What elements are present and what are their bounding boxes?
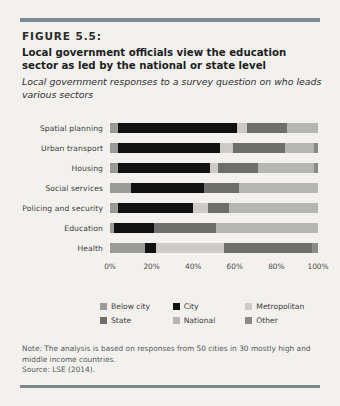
top-divider (20, 18, 320, 22)
bar-segment (118, 123, 237, 133)
figure-notes: Note: The analysis is based on responses… (22, 344, 312, 376)
legend-swatch-icon (245, 303, 252, 310)
bar-segment (233, 143, 285, 153)
chart-plot-area: Spatial planningUrban transportHousingSo… (22, 118, 318, 258)
bar-segment (216, 223, 318, 233)
category-label: Health (22, 244, 110, 253)
figure-number: FIGURE 5.5: (22, 30, 322, 42)
legend-row: Below cityCityMetropolitan (22, 302, 318, 311)
bar-segment (118, 143, 220, 153)
bar-segment (110, 203, 118, 213)
legend-swatch-icon (245, 317, 252, 324)
bar-row: Urban transport (22, 138, 318, 158)
bar-segment (210, 163, 218, 173)
legend-item[interactable]: National (173, 316, 242, 325)
bar-segment (314, 163, 318, 173)
bar-row: Social services (22, 178, 318, 198)
bar-segment (258, 163, 314, 173)
x-tick-label: 20% (143, 262, 159, 271)
x-tick-label: 100% (307, 262, 328, 271)
bar-segment (131, 183, 204, 193)
bar-segment (218, 163, 258, 173)
bar-segment (110, 123, 118, 133)
legend-item[interactable]: Metropolitan (245, 302, 314, 311)
bar-segment (239, 183, 318, 193)
stacked-bar-chart: Spatial planningUrban transportHousingSo… (22, 118, 318, 298)
stacked-bar (110, 203, 318, 213)
legend-label: State (111, 316, 131, 325)
bar-segment (220, 143, 232, 153)
bar-segment (237, 123, 247, 133)
bar-segment (247, 123, 287, 133)
x-axis-ticks: 0%20%40%60%80%100% (110, 260, 318, 276)
x-tick-label: 80% (268, 262, 284, 271)
category-label: Social services (22, 184, 110, 193)
bar-segment (208, 203, 229, 213)
bar-segment (193, 203, 208, 213)
figure-title: Local government officials view the educ… (22, 46, 322, 73)
stacked-bar (110, 163, 318, 173)
bar-segment (110, 183, 131, 193)
bar-segment (285, 143, 314, 153)
bar-segment (118, 203, 193, 213)
figure-card: FIGURE 5.5: Local government officials v… (0, 0, 340, 406)
bar-segment (204, 183, 239, 193)
note-text: Note: The analysis is based on responses… (22, 344, 312, 365)
x-tick-label: 40% (185, 262, 201, 271)
legend-label: Below city (111, 302, 150, 311)
bar-segment (156, 243, 225, 253)
legend-swatch-icon (100, 303, 107, 310)
x-axis: 0%20%40%60%80%100% (22, 260, 318, 276)
legend-label: Metropolitan (256, 302, 304, 311)
category-label: Urban transport (22, 144, 110, 153)
category-label: Education (22, 224, 110, 233)
stacked-bar (110, 223, 318, 233)
stacked-bar (110, 183, 318, 193)
bar-segment (110, 163, 118, 173)
bar-row: Policing and security (22, 198, 318, 218)
category-label: Spatial planning (22, 124, 110, 133)
bar-segment (224, 243, 311, 253)
stacked-bar (110, 243, 318, 253)
bar-row: Education (22, 218, 318, 238)
stacked-bar (110, 143, 318, 153)
category-label: Policing and security (22, 204, 110, 213)
legend-label: City (184, 302, 199, 311)
bar-segment (229, 203, 318, 213)
legend-swatch-icon (173, 317, 180, 324)
legend-swatch-icon (100, 317, 107, 324)
stacked-bar (110, 123, 318, 133)
bar-segment (118, 163, 210, 173)
legend-swatch-icon (173, 303, 180, 310)
bar-segment (145, 243, 155, 253)
bar-segment (154, 223, 216, 233)
bar-segment (312, 243, 318, 253)
legend-label: Other (256, 316, 278, 325)
category-label: Housing (22, 164, 110, 173)
legend-label: National (184, 316, 216, 325)
chart-legend: Below cityCityMetropolitanStateNationalO… (22, 302, 318, 330)
legend-item[interactable]: State (100, 316, 169, 325)
legend-item[interactable]: Other (245, 316, 314, 325)
figure-subtitle: Local government responses to a survey q… (22, 76, 322, 101)
bar-segment (110, 143, 118, 153)
legend-row: StateNationalOther (22, 316, 318, 325)
bar-segment (314, 143, 318, 153)
bottom-divider (20, 385, 320, 388)
x-tick-label: 0% (104, 262, 116, 271)
bar-segment (110, 243, 145, 253)
bar-segment (287, 123, 318, 133)
bar-row: Housing (22, 158, 318, 178)
x-tick-label: 60% (227, 262, 243, 271)
legend-item[interactable]: City (173, 302, 242, 311)
legend-item[interactable]: Below city (100, 302, 169, 311)
bar-segment (114, 223, 154, 233)
figure-header: FIGURE 5.5: Local government officials v… (22, 30, 322, 101)
source-text: Source: LSE (2014). (22, 365, 312, 376)
bar-row: Spatial planning (22, 118, 318, 138)
bar-row: Health (22, 238, 318, 258)
